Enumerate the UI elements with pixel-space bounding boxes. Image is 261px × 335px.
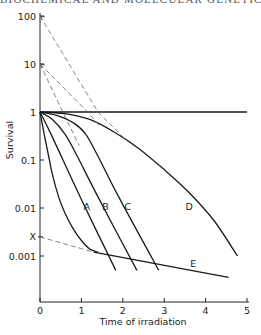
x-tick-label: 1 <box>78 305 84 316</box>
series-biphasic <box>40 112 98 252</box>
x-tick-label: 0 <box>37 305 43 316</box>
x-tick-label: 5 <box>244 305 250 316</box>
survival-chart: 0123451001010.10.010.001X ABCDE Time of … <box>0 0 261 335</box>
series-d-extrapolation <box>40 16 127 141</box>
y-tick-label: 100 <box>18 11 36 22</box>
series-e <box>94 252 229 277</box>
y-tick-label: 0.1 <box>21 155 36 166</box>
series-b <box>40 112 137 270</box>
x-tick-label: 2 <box>120 305 126 316</box>
y-axis-label: Survival <box>4 121 15 159</box>
curve-label-a: A <box>84 201 91 212</box>
chart-axes: 0123451001010.10.010.001X <box>9 11 250 317</box>
x-axis-label: Time of irradiation <box>98 316 186 327</box>
chart-series <box>40 16 247 277</box>
x-tick-label: 3 <box>161 305 167 316</box>
curve-label-d: D <box>185 201 192 212</box>
curve-label-b: B <box>102 201 109 212</box>
y-tick-label: 1 <box>30 107 36 118</box>
curve-label-c: C <box>124 201 131 212</box>
series-a <box>40 112 116 270</box>
x-tick-label: 4 <box>203 305 209 316</box>
series-c <box>40 112 159 270</box>
y-tick-label: 10 <box>24 59 36 70</box>
y-tick-label: 0.01 <box>15 203 36 214</box>
y-tick-label: 0.001 <box>9 251 36 262</box>
x-mark-label: X <box>29 231 36 242</box>
series-b-extrapolation <box>40 64 79 146</box>
curve-label-e: E <box>190 258 196 269</box>
